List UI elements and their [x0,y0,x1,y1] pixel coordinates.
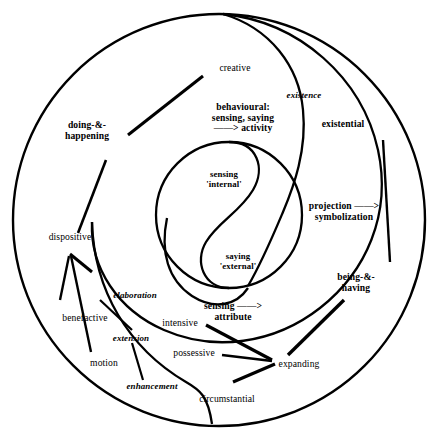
connector-extension-enhancement [132,343,143,380]
connector-circumstantial-expanding [233,364,275,382]
label-sensing-attribute: sensing ——> attribute [204,301,262,322]
connector-expanding-being [288,300,344,355]
label-elaboration: elaboration [113,290,157,300]
label-expanding: expanding [279,359,320,370]
label-saying-external: saying 'external' [220,252,257,272]
connector-existential-stem [383,140,390,262]
label-existential: existential [322,119,365,130]
label-being-and-having: being-&- having [337,272,375,293]
label-dispositive: dispositive [49,232,92,243]
connector-dispositive-benefactive [60,256,69,300]
label-doing-and-happening: doing-&- happening [65,120,109,141]
label-intensive: intensive [162,318,198,329]
label-existence: existence [287,90,322,100]
label-extension: extension [113,333,149,343]
label-enhancement: enhancement [126,381,177,391]
label-motion: motion [90,358,118,369]
label-benefactive: benefactive [62,313,107,324]
label-sensing-internal: sensing 'internal' [206,170,242,190]
connector-creative [128,76,203,135]
label-circumstantial: circumstantial [199,394,255,405]
label-possessive: possessive [173,348,215,359]
process-type-circle-diagram: creative existence existential behaviour… [0,0,441,444]
label-behavioural: behavioural: sensing, saying ——> activit… [212,102,274,134]
label-projection-symbolization: projection ——> symbolization [309,201,379,222]
label-creative: creative [219,63,250,74]
